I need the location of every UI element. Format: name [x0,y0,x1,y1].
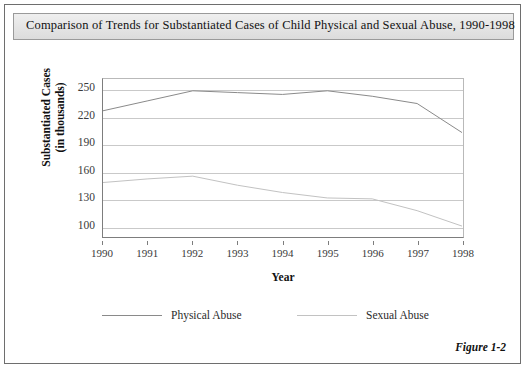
x-axis-tick-mark [147,241,148,245]
y-axis-tick-label: 250 [61,81,95,93]
x-axis-tick-label: 1997 [398,247,438,259]
x-axis-tick-labels: 199019911992199319941995199619971998 [102,241,464,263]
chart-legend: Physical AbuseSexual Abuse [102,309,464,325]
x-axis-tick-label: 1995 [308,247,348,259]
x-axis-tick-label: 1996 [353,247,393,259]
x-axis-tick-label: 1994 [263,247,303,259]
x-axis-title: Year [102,271,464,283]
figure-caption: Figure 1-2 [455,341,506,353]
x-axis-tick-mark [102,241,103,245]
legend-swatch [102,315,162,316]
legend-entry-sexual-abuse[interactable]: Sexual Abuse [297,309,429,321]
x-axis-tick-mark [192,241,193,245]
chart-lines [103,79,463,237]
x-axis-tick-label: 1991 [127,247,167,259]
plot-area [102,78,464,238]
legend-label: Physical Abuse [171,309,242,321]
legend-entry-physical-abuse[interactable]: Physical Abuse [102,309,242,321]
x-axis-tick-label: 1990 [82,247,122,259]
x-axis-tick-mark [463,241,464,245]
x-axis-tick-mark [418,241,419,245]
y-axis-tick-label: 130 [61,191,95,203]
y-axis-tick-label: 190 [61,136,95,148]
y-axis-title-line1: Substantiated Cases [40,68,52,167]
x-axis-tick-mark [283,241,284,245]
y-axis-tick-label: 160 [61,164,95,176]
series-line-physical-abuse [103,91,462,133]
y-axis-tick-labels: 250220190160130100 [57,78,95,238]
series-line-sexual-abuse [103,176,462,226]
x-axis-tick-label: 1998 [443,247,483,259]
page-title: Comparison of Trends for Substantiated C… [26,18,515,33]
x-axis-tick-label: 1993 [217,247,257,259]
legend-swatch [297,315,357,316]
figure-title-bar: Comparison of Trends for Substantiated C… [13,13,514,40]
figure-frame: Comparison of Trends for Substantiated C… [4,4,521,364]
x-axis-tick-label: 1992 [172,247,212,259]
x-axis-tick-mark [373,241,374,245]
y-axis-tick-label: 220 [61,109,95,121]
y-axis-tick-label: 100 [61,219,95,231]
legend-label: Sexual Abuse [366,309,429,321]
x-axis-tick-mark [328,241,329,245]
x-axis-tick-mark [237,241,238,245]
